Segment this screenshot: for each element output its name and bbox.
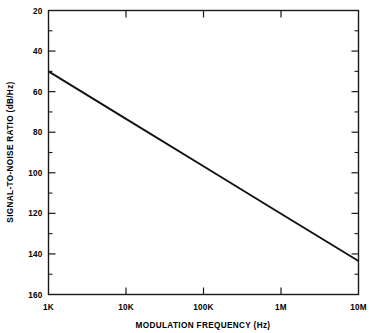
x-tick-label-4: 10M — [350, 303, 367, 312]
y-tick-label-5: 120 — [28, 209, 43, 218]
chart-container: 20406080100120140160 1K10K100K1M10M MODU… — [0, 0, 371, 333]
x-tick-label-1: 10K — [118, 303, 134, 312]
x-tick-label-0: 1K — [43, 303, 54, 312]
y-tick-label-1: 40 — [33, 47, 43, 56]
x-tick-label-3: 1M — [275, 303, 287, 312]
x-tick-label-2: 100K — [193, 303, 213, 312]
chart-background — [0, 0, 371, 333]
y-tick-label-0: 20 — [33, 7, 43, 16]
signal-to-noise-ratio-chart: 20406080100120140160 1K10K100K1M10M MODU… — [0, 0, 371, 333]
y-tick-label-3: 80 — [33, 128, 43, 137]
y-axis-title: SIGNAL-TO-NOISE RATIO (dB/Hz) — [6, 81, 15, 222]
y-tick-label-6: 140 — [28, 250, 43, 259]
y-tick-label-2: 60 — [33, 88, 43, 97]
y-tick-label-7: 160 — [28, 291, 43, 300]
y-tick-label-4: 100 — [28, 169, 43, 178]
x-axis-title: MODULATION FREQUENCY (Hz) — [136, 321, 271, 330]
